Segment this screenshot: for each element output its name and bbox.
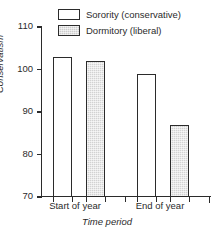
y-tick-label-80: 80	[22, 148, 33, 159]
x-axis-title: Time period	[0, 216, 214, 227]
plot-area: 110 100 90 80 70	[41, 27, 211, 197]
y-tick-80: 80	[37, 154, 42, 155]
bar-chart-figure: Sorority (conservative) Dormitory (liber…	[0, 0, 214, 235]
x-category-label-end: End of year	[113, 200, 207, 211]
y-tick-90: 90	[37, 111, 42, 112]
y-tick-label-100: 100	[17, 63, 33, 74]
x-category-label-start: Start of year	[28, 200, 122, 211]
bar-dormitory-start	[86, 61, 105, 197]
bar-dormitory-end	[170, 125, 189, 197]
x-tick-right-endcap	[209, 197, 210, 203]
y-tick-110: 110	[37, 26, 42, 27]
legend-item-sorority: Sorority (conservative)	[58, 7, 208, 21]
y-tick-label-90: 90	[22, 105, 33, 116]
legend-label-sorority: Sorority (conservative)	[86, 9, 181, 20]
y-tick-70: 70	[37, 196, 42, 197]
bar-sorority-start	[53, 57, 72, 197]
legend-swatch-sorority	[58, 9, 80, 20]
y-tick-100: 100	[37, 69, 42, 70]
bar-sorority-end	[137, 74, 156, 197]
y-axis-title: Conservatism	[0, 35, 5, 93]
y-tick-label-110: 110	[18, 20, 33, 31]
